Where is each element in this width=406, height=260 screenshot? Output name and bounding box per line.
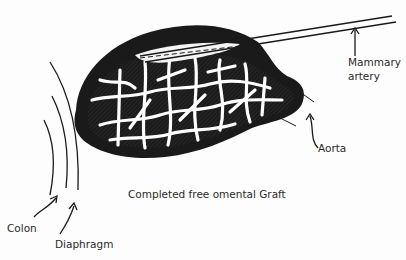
- omental-graft-illustration: Mammary artery Aorta Colon Diaphragm Com…: [0, 0, 406, 260]
- mammary-label-line2: artery: [348, 69, 401, 83]
- diaphragm-label: Diaphragm: [55, 237, 113, 251]
- colon-arrowhead: [50, 196, 57, 203]
- diaphragm-arc-outer: [50, 62, 78, 190]
- colon-arc: [44, 120, 53, 195]
- figure-caption: Completed free omental Graft: [128, 187, 286, 201]
- aorta-label: Aorta: [318, 141, 346, 155]
- mammary-artery-label: Mammary artery: [348, 55, 401, 83]
- diaphragm-arc-inner: [52, 96, 67, 188]
- colon-arrow: [34, 198, 56, 217]
- diaphragm-arcs: [44, 62, 78, 195]
- colon-label: Colon: [7, 221, 37, 235]
- diaphragm-arrow: [60, 206, 74, 234]
- aorta-arrow: [310, 116, 318, 148]
- mammary-label-line1: Mammary: [348, 55, 401, 69]
- illustration-canvas: [0, 0, 406, 260]
- omental-graft: [74, 25, 304, 158]
